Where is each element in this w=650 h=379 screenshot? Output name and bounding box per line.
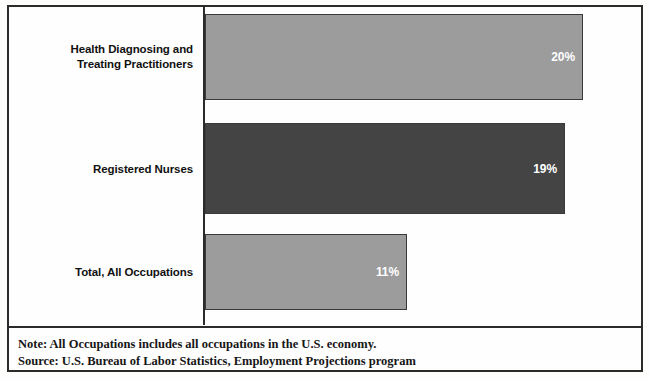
note-text: Note: All Occupations includes all occup… <box>18 336 618 353</box>
notes-divider <box>9 326 641 328</box>
source-text: Source: U.S. Bureau of Labor Statistics,… <box>18 353 618 370</box>
bar-health-practitioners: 20% <box>205 14 583 100</box>
chart-figure: Health Diagnosing and Treating Practitio… <box>0 0 650 379</box>
bar-total-all-occupations: 11% <box>205 234 407 310</box>
category-label-line1: Registered Nurses <box>93 162 193 174</box>
bar-row: Registered Nurses 19% <box>9 123 641 214</box>
bar-value-label: 20% <box>551 50 575 64</box>
category-label-total-all-occupations: Total, All Occupations <box>9 265 193 280</box>
category-label-line1: Total, All Occupations <box>75 266 193 278</box>
bar-row: Total, All Occupations 11% <box>9 234 641 310</box>
category-label-registered-nurses: Registered Nurses <box>9 161 193 176</box>
category-label-line2: Treating Practitioners <box>77 58 193 70</box>
bar-row: Health Diagnosing and Treating Practitio… <box>9 14 641 100</box>
bar-value-label: 19% <box>533 162 557 176</box>
chart-footnotes: Note: All Occupations includes all occup… <box>18 336 618 370</box>
category-label-health-practitioners: Health Diagnosing and Treating Practitio… <box>9 42 193 72</box>
bar-registered-nurses: 19% <box>205 123 565 214</box>
plot-area: Health Diagnosing and Treating Practitio… <box>9 7 641 325</box>
bar-value-label: 11% <box>376 265 399 279</box>
category-label-line1: Health Diagnosing and <box>71 43 194 55</box>
